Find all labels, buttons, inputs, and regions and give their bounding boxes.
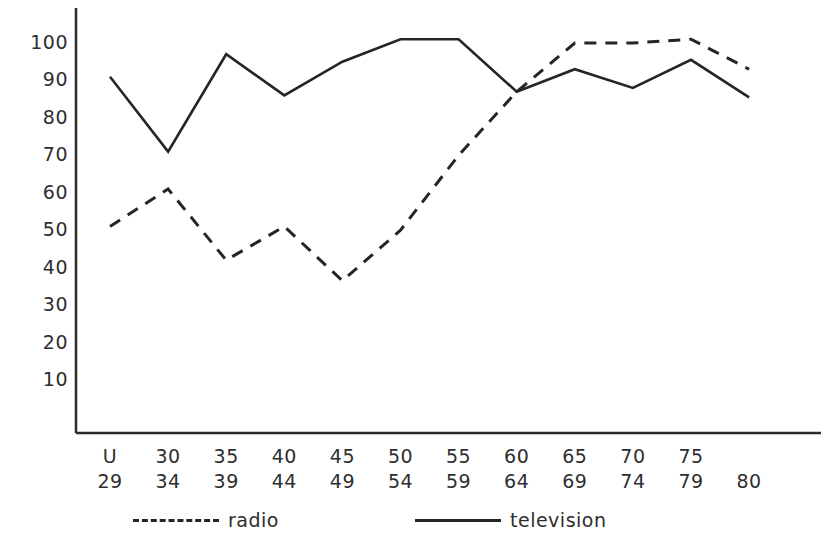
x-axis-tick-label: 6064 (489, 444, 545, 494)
x-tick-upper: 55 (431, 444, 487, 469)
x-axis-tick-label: 3539 (198, 444, 254, 494)
chart-legend: radio television (0, 505, 821, 541)
x-axis-tick-label: 5054 (373, 444, 429, 494)
x-axis-tick-label: U29 (82, 444, 138, 494)
line-chart: 100908070605040302010 U29303435394044454… (0, 0, 821, 544)
x-axis-tick-label: 4549 (314, 444, 370, 494)
legend-item-radio: radio (133, 505, 279, 535)
x-tick-upper (721, 444, 777, 469)
x-tick-upper: 60 (489, 444, 545, 469)
x-tick-lower: 29 (82, 469, 138, 494)
x-tick-upper: 40 (256, 444, 312, 469)
x-tick-lower: 44 (256, 469, 312, 494)
x-tick-upper: 35 (198, 444, 254, 469)
x-axis-tick-labels: U293034353940444549505455596064656970747… (0, 444, 821, 500)
legend-label-television: television (510, 511, 606, 530)
x-tick-lower: 79 (663, 469, 719, 494)
x-tick-upper: 65 (547, 444, 603, 469)
dashed-line-swatch-icon (133, 519, 219, 522)
x-axis-tick-label: 3034 (140, 444, 196, 494)
series-line-television (110, 39, 749, 151)
x-axis-tick-label: 6569 (547, 444, 603, 494)
series-line-radio (110, 39, 749, 281)
x-tick-upper: 70 (605, 444, 661, 469)
x-tick-lower: 59 (431, 469, 487, 494)
series-lines (110, 39, 749, 281)
x-tick-lower: 49 (314, 469, 370, 494)
x-tick-upper: 50 (373, 444, 429, 469)
x-tick-lower: 39 (198, 469, 254, 494)
x-tick-upper: 30 (140, 444, 196, 469)
x-tick-upper: 45 (314, 444, 370, 469)
x-tick-upper: 75 (663, 444, 719, 469)
x-axis-tick-label: 4044 (256, 444, 312, 494)
x-tick-upper: U (82, 444, 138, 469)
x-axis-tick-label: 80 (721, 444, 777, 494)
legend-item-television: television (415, 505, 606, 535)
x-tick-lower: 69 (547, 469, 603, 494)
x-tick-lower: 54 (373, 469, 429, 494)
x-axis-tick-label: 7074 (605, 444, 661, 494)
solid-line-swatch-icon (415, 519, 501, 522)
x-tick-lower: 64 (489, 469, 545, 494)
x-axis-tick-label: 7579 (663, 444, 719, 494)
x-tick-lower: 74 (605, 469, 661, 494)
x-tick-lower: 80 (721, 469, 777, 494)
legend-label-radio: radio (228, 511, 279, 530)
x-axis-tick-label: 5559 (431, 444, 487, 494)
x-tick-lower: 34 (140, 469, 196, 494)
